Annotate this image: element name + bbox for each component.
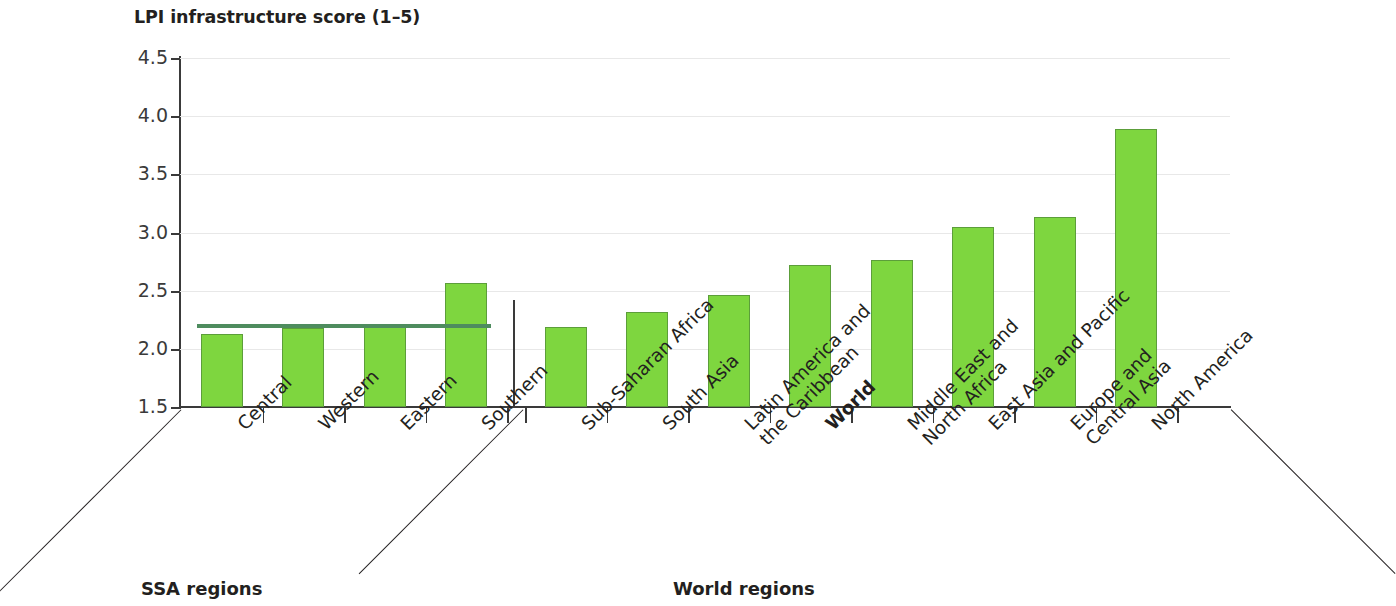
y-tick-label: 3.0 [88,221,168,243]
x-tick-mark [525,408,527,423]
y-tick-label: 2.5 [88,279,168,301]
group-label-world: World regions [673,578,815,599]
y-tick-label: 1.5 [88,395,168,417]
bar [282,328,324,407]
ssa-average-reference-line [197,324,492,329]
world-brace-diagonal-right [1231,409,1396,574]
y-tick-label: 4.5 [88,46,168,68]
y-axis-labels: 4.5 4.0 3.5 3.0 2.5 2.0 1.5 [0,0,180,606]
world-brace-diagonal-left [358,409,523,574]
y-tick-label: 2.0 [88,337,168,359]
bar [545,327,587,407]
gridline [180,174,1230,175]
gridline [180,116,1230,117]
group-label-ssa: SSA regions [141,578,262,599]
gridline [180,58,1230,59]
y-tick-label: 3.5 [88,162,168,184]
y-tick-label: 4.0 [88,104,168,126]
bar [201,334,243,407]
